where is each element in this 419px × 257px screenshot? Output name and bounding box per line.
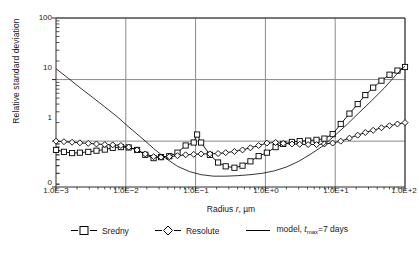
legend-line-marker-icon	[245, 225, 271, 236]
legend-model-prefix: model,	[276, 224, 304, 234]
x-tick-label-1e-1: 1.0E−1	[166, 186, 226, 195]
x-tick-label-1e-3: 1.0E−3	[26, 186, 86, 195]
legend-diamond-marker-icon	[155, 225, 181, 236]
y-tick-label-100: 100	[20, 14, 52, 22]
legend-model-suffix: =7 days	[318, 224, 348, 234]
legend-square-marker-icon	[71, 225, 97, 236]
chart-figure: Relative standard deviation 100 10 1 0 1…	[0, 0, 419, 257]
series-model-tmax-7-days	[56, 66, 405, 176]
plot-area	[0, 0, 419, 257]
y-tick-label-10: 10	[20, 64, 52, 72]
x-axis-title-suffix: , µm	[238, 204, 255, 214]
y-tick-label-1: 1	[20, 114, 52, 122]
data-series-layer	[53, 64, 408, 176]
legend-item-resolute: Resolute	[155, 225, 220, 236]
series-resolute	[53, 120, 408, 161]
legend-label-resolute: Resolute	[186, 226, 220, 236]
x-axis-title-prefix: Radius	[207, 204, 236, 214]
chart-legend: Sredny Resolute model, tmax=7 days	[0, 224, 419, 237]
x-tick-label-1e1: 1.0E+1	[306, 186, 366, 195]
legend-label-model: model, tmax=7 days	[276, 224, 348, 237]
plot-frame	[56, 18, 405, 187]
legend-item-model: model, tmax=7 days	[245, 224, 348, 237]
axis-ticks	[52, 18, 405, 191]
legend-item-sredny: Sredny	[71, 225, 129, 236]
x-tick-label-1e0: 1.0E+0	[236, 186, 296, 195]
legend-model-subscript: max	[307, 229, 318, 235]
y-axis-tick-labels: 100 10 1 0	[16, 0, 52, 200]
x-tick-label-1e-2: 1.0E−2	[96, 186, 156, 195]
gridlines	[56, 18, 405, 187]
x-tick-label-1e2: 1.0E+2	[374, 186, 419, 195]
x-axis-title: Radius r, µm	[56, 204, 406, 214]
series-sredny	[53, 64, 407, 170]
legend-label-sredny: Sredny	[102, 226, 129, 236]
